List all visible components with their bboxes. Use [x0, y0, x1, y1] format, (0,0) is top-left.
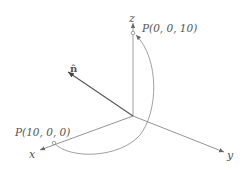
point-end-marker: [52, 141, 56, 145]
point-start-marker: [131, 31, 135, 35]
rotation-diagram: z x y n̂ P(0, 0, 10) P(10, 0, 0): [0, 0, 247, 170]
z-axis-label: z: [128, 12, 135, 25]
x-axis-label: x: [29, 148, 36, 161]
normal-vector: [68, 72, 133, 116]
y-axis: [133, 116, 224, 152]
normal-label: n̂: [70, 63, 78, 74]
y-axis-label: y: [226, 149, 234, 162]
point-end-label: P(10, 0, 0): [14, 126, 70, 138]
point-start-label: P(0, 0, 10): [141, 22, 197, 34]
